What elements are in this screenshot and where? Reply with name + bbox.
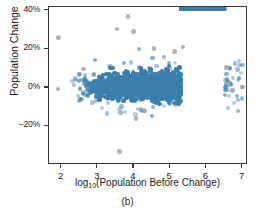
scatter-point [175,96,179,100]
x-axis-title-prefix: log [75,177,88,188]
figure-caption: (b) [0,196,255,207]
x-tick-mark [205,164,206,168]
scatter-point [237,76,241,80]
scatter-point [150,114,154,118]
scatter-point [122,98,126,102]
scatter-point [137,65,141,69]
x-tick-mark [169,164,170,168]
x-tick-mark [60,164,61,168]
y-tick-mark [44,86,48,87]
scatter-point [118,110,123,115]
scatter-point [108,72,112,76]
scatter-point [224,72,228,76]
scatter-point [134,116,139,121]
scatter-point [113,77,117,81]
scatter-point [97,74,101,78]
scatter-point [222,7,226,11]
scatter-point [123,110,127,114]
scatter-point [237,63,241,67]
scatter-point [137,47,141,51]
scatter-point [239,71,243,75]
scatter-point [227,94,231,98]
scatter-point [152,46,157,51]
scatter-point [109,91,113,95]
scatter-point [214,7,218,11]
scatter-point [168,102,172,106]
scatter-point [129,60,133,64]
x-tick-mark [96,164,97,168]
scatter-point [117,149,122,154]
scatter-point [138,98,142,102]
scatter-point [173,89,177,93]
scatter-point [162,55,166,59]
scatter-point [231,76,235,80]
scatter-point [112,87,116,91]
plot-frame [48,6,247,164]
scatter-point [173,82,177,86]
figure-panel-b: 40%20%0%−20% 234567 Population Change lo… [0,0,255,215]
scatter-point [240,85,245,90]
scatter-point [209,7,213,11]
scatter-point [223,78,227,82]
scatter-point [235,67,239,71]
scatter-point [151,105,155,109]
scatter-point [108,77,112,81]
scatter-point [181,45,186,50]
scatter-point [100,106,104,110]
scatter-point [147,66,151,70]
scatter-point [77,99,81,103]
scatter-point [81,67,86,72]
scatter-point [167,95,171,99]
scatter-point [187,7,191,11]
scatter-point [172,49,177,54]
scatter-point [173,61,177,65]
scatter-point [106,100,110,104]
scatter-point [201,7,205,11]
x-axis-title-suffix: (Population Before Change) [96,177,220,188]
scatter-point [105,82,109,86]
scatter-point [136,107,140,111]
scatter-point [78,87,82,91]
scatter-point [105,111,109,115]
scatter-point [96,79,100,83]
scatter-point [230,88,235,93]
scatter-point [172,71,176,75]
scatter-point [126,14,131,19]
scatter-point [75,78,79,82]
scatter-point [56,35,61,40]
scatter-point [77,73,81,77]
scatter-point [224,65,229,70]
scatter-point [236,109,240,113]
scatter-point [168,66,172,70]
scatter-point [131,69,135,73]
y-axis-title: Population Change [7,0,21,111]
scatter-point [240,96,244,100]
scatter-point [173,103,177,107]
x-tick-mark [241,164,242,168]
scatter-point [91,73,95,77]
scatter-point [150,56,154,60]
scatter-point [98,91,102,95]
scatter-point [235,94,239,98]
scatter-point [56,87,61,92]
x-axis-title-subscript: 10 [88,182,96,189]
scatter-point [93,58,97,62]
scatter-point [192,7,196,11]
x-tick-mark [132,164,133,168]
x-axis-title: log10(Population Before Change) [48,177,247,188]
scatter-point [226,106,230,110]
scatter-point [128,78,132,82]
y-tick-mark [44,9,48,10]
y-axis-title-text: Population Change [7,0,21,111]
scatter-point [122,61,126,65]
scatter-point [115,27,120,32]
scatter-point [102,87,106,91]
scatter-point [94,99,98,103]
scatter-point [158,97,162,101]
scatter-points-layer [49,7,246,163]
scatter-point [154,64,158,68]
scatter-point [132,83,136,87]
scatter-point [85,93,89,97]
scatter-point [156,92,160,96]
scatter-point [162,104,166,108]
